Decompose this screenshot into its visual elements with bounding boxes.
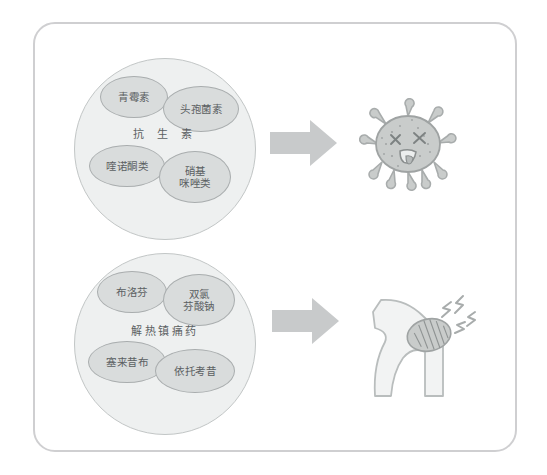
drug-bubble-penicillin: 青霉素 — [100, 76, 168, 118]
drug-bubble-ibuprofen: 布洛芬 — [97, 271, 167, 313]
arrow-analgesics — [272, 296, 340, 346]
drug-bubble-quinolones: 喹诺酮类 — [89, 145, 165, 187]
drug-bubble-etoricoxib: 依托考昔 — [155, 349, 235, 393]
germ-tongue — [406, 156, 413, 164]
drug-label-celecoxib: 塞来昔布 — [106, 356, 148, 368]
group-circle-antibiotics — [74, 58, 256, 240]
drug-label-nitroimidazoles: 硝基 咪唑类 — [179, 165, 211, 189]
painful-knee-illustration — [345, 272, 480, 400]
drug-label-penicillin: 青霉素 — [118, 91, 150, 103]
drug-label-cephalosporin: 头孢菌素 — [180, 103, 222, 115]
drug-label-quinolones: 喹诺酮类 — [106, 160, 148, 172]
drug-label-diclofenac-sodium: 双氯 芬酸钠 — [183, 288, 215, 312]
drug-label-ibuprofen: 布洛芬 — [116, 286, 148, 298]
drug-bubble-celecoxib: 塞来昔布 — [88, 341, 166, 383]
drug-bubble-diclofenac-sodium: 双氯 芬酸钠 — [163, 274, 235, 326]
arrow-antibiotics — [270, 118, 338, 168]
drug-label-etoricoxib: 依托考昔 — [174, 365, 216, 377]
group-label-antibiotics: 抗 生 素 — [74, 125, 256, 141]
drug-bubble-nitroimidazoles: 硝基 咪唑类 — [159, 151, 231, 203]
diagram-canvas: 青霉素 头孢菌素 抗 生 素 喹诺酮类 硝基 咪唑类 — [0, 0, 547, 475]
group-label-analgesics: 解热镇痛药 — [74, 322, 256, 338]
dead-germ-illustration — [358, 98, 458, 194]
